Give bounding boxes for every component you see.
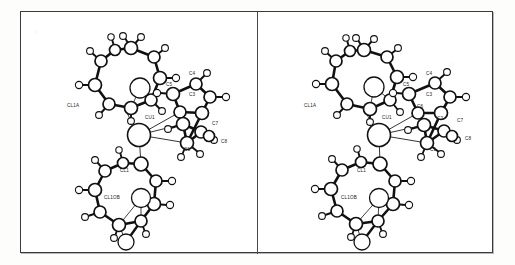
ring-atom <box>95 55 107 67</box>
carbon-atom <box>167 88 180 101</box>
carbon-atom <box>177 118 190 131</box>
hydrogen-atom <box>108 34 114 40</box>
carbon-atom <box>447 131 458 142</box>
hydrogen-atom <box>353 35 360 42</box>
ring-atom <box>391 71 404 84</box>
ring-atom <box>148 51 160 63</box>
hydrogen-atom <box>348 234 355 241</box>
hydrogen-atom <box>168 177 175 184</box>
ring-atom <box>389 175 401 187</box>
hydrogen-atom <box>111 235 118 242</box>
hydrogen-atom <box>159 108 166 115</box>
pendant-atom <box>354 234 370 250</box>
hydrogen-atom <box>138 34 145 41</box>
hydrogen-atom <box>371 36 378 43</box>
atom-label-c4: C4 <box>426 71 433 76</box>
ring-atom <box>331 205 343 217</box>
ring-center-atom <box>130 78 150 98</box>
hydrogen-atom <box>444 69 451 76</box>
atom-label-c1: C1 <box>184 147 191 152</box>
ring-atom <box>364 103 377 116</box>
ring-atom <box>118 158 129 169</box>
figure-frame: CL1ACU1C4C5C3C7C8C1CL1CL1OB CL1ACU1C4C5C… <box>20 11 493 253</box>
atom-label-cl1: CL1 <box>357 168 366 173</box>
hydrogen-atom <box>397 109 404 116</box>
figure-page: CL1ACU1C4C5C3C7C8C1CL1CL1OB CL1ACU1C4C5C… <box>0 0 515 265</box>
hydrogen-atom <box>204 70 211 77</box>
atom-label-cu1: CU1 <box>145 115 155 120</box>
hydrogen-atom <box>82 214 89 221</box>
stereo-view-right: CL1ACU1C4C5C3C6C2C7C8C1CL1CL1OB <box>258 12 494 254</box>
atom-label-cl1a: CL1A <box>67 103 80 108</box>
atom-label-c2: C2 <box>437 116 444 121</box>
hydrogen-atom <box>165 126 172 133</box>
hydrogen-atom <box>172 74 179 81</box>
carbon-atom <box>196 107 209 120</box>
ring-atom <box>154 72 167 85</box>
hydrogen-atom <box>319 213 326 220</box>
atom-label-c3: C3 <box>426 92 433 97</box>
hydrogen-atom <box>329 156 336 163</box>
hydrogen-atom <box>405 127 412 134</box>
hydrogen-atom <box>354 146 360 152</box>
ring-atom <box>103 98 115 110</box>
atom-label-cl1ob: CL1OB <box>341 195 357 200</box>
hydrogen-atom <box>389 89 396 96</box>
hydrogen-atom <box>343 35 349 41</box>
ring-atom <box>341 98 353 110</box>
hydrogen-atom <box>178 154 185 161</box>
ring-atom <box>326 78 339 91</box>
atom-cu1 <box>128 124 151 147</box>
atom-label-cl1ob: CL1OB <box>104 195 120 200</box>
hydrogen-atom <box>222 93 229 100</box>
carbon-atom <box>204 91 216 103</box>
hydrogen-atom <box>87 48 94 55</box>
hydrogen-atom <box>312 80 319 87</box>
hydrogen-atom <box>334 112 341 119</box>
hydrogen-atom <box>380 231 387 238</box>
ring-atom <box>113 219 126 232</box>
atom-label-c7: C7 <box>212 121 219 126</box>
atom-label-c6: C6 <box>417 104 424 109</box>
ring-atom <box>325 183 338 196</box>
ortep-drawing-right: CL1ACU1C4C5C3C6C2C7C8C1CL1CL1OB <box>258 12 494 254</box>
ring-atom <box>373 157 387 171</box>
hydrogen-atom <box>75 81 82 88</box>
hydrogen-atom <box>438 151 445 158</box>
ring-atom <box>150 175 162 187</box>
hydrogen-atom <box>311 185 318 192</box>
ring-center-atom <box>132 189 151 208</box>
hydrogen-atom <box>462 93 469 100</box>
ring-atom <box>372 215 384 227</box>
hydrogen-atom <box>166 201 173 208</box>
hydrogen-atom <box>197 151 204 158</box>
carbon-atom <box>418 119 431 132</box>
atom-label-c1: C1 <box>430 147 437 152</box>
atom-label-c4: C4 <box>189 71 196 76</box>
stereo-view-left: CL1ACU1C4C5C3C7C8C1CL1CL1OB <box>21 12 257 254</box>
hydrogen-atom <box>407 177 414 184</box>
hydrogen-atom <box>322 48 329 55</box>
hydrogen-atom <box>120 33 127 40</box>
ring-atom <box>94 206 106 218</box>
ring-center-atom <box>370 189 389 208</box>
pendant-atom <box>118 234 134 250</box>
ring-atom <box>99 165 111 177</box>
hydrogen-atom <box>116 147 122 153</box>
atom-label-c8: C8 <box>221 139 228 144</box>
ring-atom <box>125 102 138 115</box>
ring-atom <box>345 46 356 57</box>
ring-atom <box>134 157 148 171</box>
ring-atom <box>350 218 363 231</box>
atom-label-cl1: CL1 <box>120 168 129 173</box>
hydrogen-atom <box>367 119 374 126</box>
atom-cu1 <box>368 124 391 147</box>
ring-atom <box>125 42 138 55</box>
ring-atom <box>89 184 102 197</box>
hydrogen-atom <box>405 201 412 208</box>
atom-label-cl1a: CL1A <box>304 103 317 108</box>
hydrogen-atom <box>75 186 82 193</box>
atom-label-c5: C5 <box>403 82 410 87</box>
carbon-atom <box>174 106 186 118</box>
hydrogen-atom <box>92 157 99 164</box>
